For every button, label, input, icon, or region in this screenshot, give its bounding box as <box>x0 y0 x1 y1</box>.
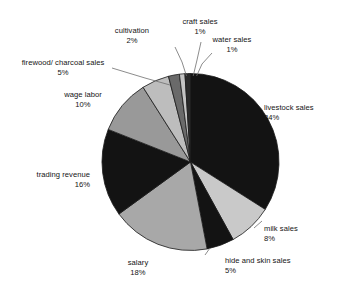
slice-label-name: trading revenue <box>28 170 90 180</box>
slice-label-name: milk sales <box>264 224 298 234</box>
slice-label-name: salary <box>114 258 162 268</box>
slice-label-name: craft sales <box>172 17 228 27</box>
slice-label-trading-revenue: trading revenue 16% <box>28 170 90 189</box>
slice-label-water-sales: water sales 1% <box>204 35 260 54</box>
slice-label-percent: 5% <box>14 68 112 78</box>
slice-label-percent: 34% <box>264 113 314 123</box>
leader-line-craft <box>193 42 201 76</box>
slice-label-name: wage labor <box>54 90 112 100</box>
slice-label-firewood-charcoal-sales: firewood/ charcoal sales 5% <box>14 58 112 77</box>
slice-label-craft-sales: craft sales 1% <box>172 17 228 36</box>
slice-label-percent: 16% <box>28 180 90 190</box>
slice-label-salary: salary 18% <box>114 258 162 277</box>
slice-label-name: water sales <box>204 35 260 45</box>
slice-label-milk-sales: milk sales 8% <box>264 224 298 243</box>
slice-label-wage-labor: wage labor 10% <box>54 90 112 109</box>
slice-label-name: cultivation <box>104 26 160 36</box>
slice-label-percent: 5% <box>225 266 291 276</box>
slice-label-percent: 8% <box>264 234 298 244</box>
slice-label-hide-and-skin-sales: hide and skin sales 5% <box>225 256 291 275</box>
slice-label-percent: 1% <box>204 45 260 55</box>
pie-chart-canvas <box>0 0 340 287</box>
slice-label-percent: 2% <box>104 36 160 46</box>
leader-line-cultivation <box>175 47 187 76</box>
slice-label-percent: 18% <box>114 268 162 278</box>
slice-label-cultivation: cultivation 2% <box>104 26 160 45</box>
leader-line-water <box>197 53 212 76</box>
slice-label-name: livestock sales <box>264 103 314 113</box>
slice-label-percent: 10% <box>54 100 112 110</box>
pie-chart: livestock sales 34% milk sales 8% hide a… <box>0 0 340 287</box>
slice-label-name: firewood/ charcoal sales <box>14 58 112 68</box>
pie-slice-group <box>102 73 279 250</box>
slice-label-livestock-sales: livestock sales 34% <box>264 103 314 122</box>
leader-line-firewood <box>112 68 170 85</box>
slice-label-name: hide and skin sales <box>225 256 291 266</box>
